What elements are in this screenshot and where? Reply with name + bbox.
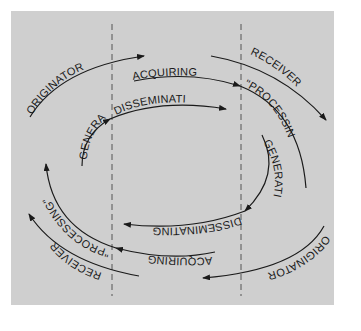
arrow-acquiring-bottom — [116, 248, 215, 256]
label-acquiring-top: ACQUIRING — [131, 65, 197, 82]
label-originator-top: ORIGINATOR — [24, 60, 85, 116]
information-cycle-diagram: ORIGINATOR ACQUIRING DISSEMINATING GENER… — [0, 0, 361, 331]
svg-text:DISSEMINATING: DISSEMINATING — [0, 0, 186, 117]
label-disseminating-bottom: DISSEMINATING — [152, 215, 243, 238]
arrow-originator-bottom — [203, 226, 324, 278]
svg-text:ORIGINATOR: ORIGINATOR — [24, 60, 85, 116]
label-disseminating-top: DISSEMINATING — [0, 0, 186, 117]
svg-text:ORIGINATOR: ORIGINATOR — [266, 234, 333, 283]
svg-text:ACQUIRING: ACQUIRING — [131, 65, 197, 82]
svg-text:DISSEMINATING: DISSEMINATING — [152, 215, 243, 238]
label-originator-bottom: ORIGINATOR — [266, 234, 333, 283]
